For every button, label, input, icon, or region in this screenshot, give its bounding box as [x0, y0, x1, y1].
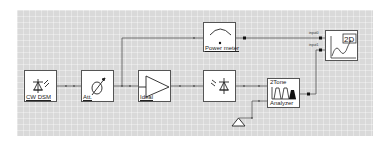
- two-tone-analyzer-block[interactable]: 2Tone Analyzer: [267, 78, 300, 108]
- analyzer-label: Analyzer: [270, 100, 293, 107]
- port-label-input1: input1: [309, 43, 319, 47]
- attenuator-block[interactable]: Att.: [81, 70, 114, 102]
- ground-icon[interactable]: [230, 114, 248, 128]
- 2d-plot-icon: 2D: [326, 31, 359, 62]
- photodiode-icon: [204, 71, 237, 103]
- 2d-plot-label: 2D: [344, 35, 354, 44]
- 2d-plot-block[interactable]: 2D: [325, 30, 358, 61]
- amplifier-label: Ideal: [140, 94, 153, 101]
- power-meter-label: Power meter: [205, 45, 239, 52]
- photodetector-block[interactable]: [203, 70, 236, 102]
- power-meter-block[interactable]: Power meter: [203, 22, 236, 52]
- port-label-input0: input0: [309, 31, 319, 35]
- attenuator-label: Att.: [83, 94, 92, 101]
- amplifier-block[interactable]: Ideal: [138, 70, 171, 102]
- cw-dsm-block[interactable]: CW DSM: [24, 70, 57, 102]
- cw-dsm-label: CW DSM: [26, 94, 51, 101]
